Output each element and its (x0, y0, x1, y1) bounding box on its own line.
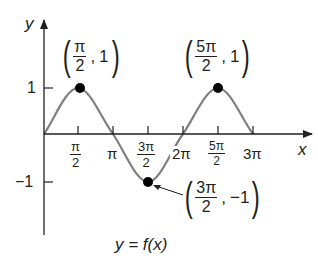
point-label-3pi-over-2: ( 3π 2 , −1 ) (182, 177, 263, 217)
y-tick-label-1: 1 (27, 80, 36, 96)
function-caption: y = f(x) (115, 236, 167, 253)
y-tick-label-neg1: −1 (15, 174, 33, 190)
x-tick-label-pi: π (105, 146, 119, 161)
point-max-2 (213, 83, 223, 93)
x-ticks (78, 126, 253, 134)
point-min (143, 177, 153, 187)
point-label-pi-over-2: ( π 2 , 1 ) (60, 36, 122, 76)
point-label-5pi-over-2: ( 5π 2 , 1 ) (182, 36, 253, 76)
x-tick-label-3pi-over-2: 3π 2 (135, 140, 157, 169)
y-axis-label: y (25, 15, 34, 32)
x-tick-label-5pi-over-2: 5π 2 (206, 140, 227, 167)
x-tick-label-pi-over-2: π 2 (68, 140, 83, 169)
annotation-pointer (156, 186, 183, 195)
point-max-1 (75, 83, 85, 93)
y-ticks (44, 88, 53, 182)
x-tick-label-3pi: 3π (241, 146, 264, 161)
x-axis-label: x (298, 141, 307, 158)
x-tick-label-2pi: 2π (170, 146, 193, 161)
chart-canvas (0, 0, 318, 261)
